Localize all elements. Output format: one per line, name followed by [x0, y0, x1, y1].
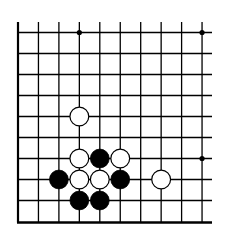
black-stone: [90, 149, 109, 168]
black-stone: [111, 170, 130, 189]
white-stone: [90, 170, 109, 189]
white-stone: [111, 149, 130, 168]
board-grid: [17, 22, 212, 223]
white-stone: [152, 170, 171, 189]
white-stone: [70, 107, 89, 126]
star-point-icon: [199, 156, 204, 161]
go-board: [0, 0, 227, 239]
white-stone: [70, 170, 89, 189]
black-stone: [50, 170, 69, 189]
white-stone: [70, 149, 89, 168]
star-point-icon: [199, 30, 204, 35]
black-stone: [70, 191, 89, 210]
black-stone: [90, 191, 109, 210]
star-point-icon: [77, 30, 82, 35]
